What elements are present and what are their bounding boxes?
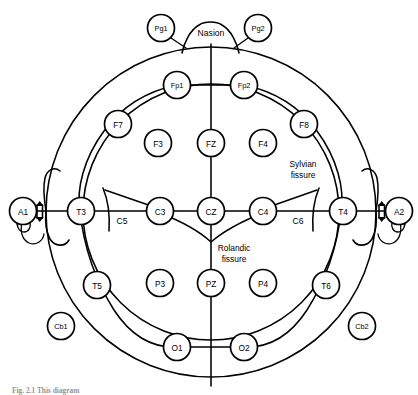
- electrode-label-fp2: Fp2: [238, 81, 250, 90]
- electrode-label-f8: F8: [299, 120, 309, 130]
- electrode-label-o2: O2: [239, 343, 250, 353]
- label-c6: C6: [293, 216, 304, 226]
- electrode-label-pz: PZ: [206, 279, 216, 289]
- electrode-fz[interactable]: FZ: [198, 130, 225, 157]
- electrode-pz[interactable]: PZ: [198, 270, 225, 297]
- electrode-label-c3: C3: [155, 207, 166, 217]
- electrode-cz[interactable]: CZ: [198, 198, 225, 225]
- electrode-label-a2: A2: [394, 207, 404, 217]
- electrode-a1[interactable]: A1: [10, 198, 37, 225]
- pg1-connector: [171, 38, 186, 48]
- electrode-label-t4: T4: [338, 207, 348, 217]
- electrode-label-t3: T3: [76, 207, 86, 217]
- electrode-t6[interactable]: T6: [313, 272, 340, 299]
- nasion-label: Nasion: [198, 28, 225, 38]
- electrode-f7[interactable]: F7: [105, 111, 132, 138]
- electrode-label-fp1: Fp1: [171, 81, 183, 90]
- electrode-p4[interactable]: P4: [250, 270, 277, 297]
- electrode-label-a1: A1: [18, 207, 28, 217]
- electrode-label-cz: CZ: [206, 207, 217, 217]
- electrode-p3[interactable]: P3: [147, 270, 174, 297]
- electrode-label-c4: C4: [258, 207, 269, 217]
- left-sylvian-fissure-curve: [103, 188, 109, 231]
- electrode-label-fz: FZ: [206, 139, 216, 149]
- label-c5: C5: [117, 216, 128, 226]
- annotation-rolandic-line2: fissure: [222, 254, 247, 264]
- electrode-t4[interactable]: T4: [330, 198, 357, 225]
- electrode-label-f7: F7: [113, 120, 123, 130]
- electrode-fp2[interactable]: Fp2: [231, 72, 258, 99]
- electrode-f8[interactable]: F8: [291, 111, 318, 138]
- electrode-pg1[interactable]: Pg1: [148, 15, 175, 42]
- electrode-label-cb2: Cb2: [355, 322, 368, 331]
- electrode-t3[interactable]: T3: [68, 198, 95, 225]
- electrode-pg2[interactable]: Pg2: [245, 15, 272, 42]
- electrode-t5[interactable]: T5: [84, 272, 111, 299]
- electrode-o2[interactable]: O2: [231, 334, 258, 361]
- right-sylvian-fissure-curve: [313, 188, 319, 231]
- electrode-label-cb1: Cb1: [54, 322, 67, 331]
- electrode-label-pg2: Pg2: [252, 24, 265, 33]
- electrode-a2[interactable]: A2: [386, 198, 413, 225]
- annotation-sylvian-line1: Sylvian: [290, 159, 317, 169]
- electrode-o1[interactable]: O1: [164, 334, 191, 361]
- electrode-label-o1: O1: [172, 343, 183, 353]
- electrode-label-t6: T6: [321, 281, 331, 291]
- annotation-sylvian: Sylvianfissure: [290, 159, 317, 180]
- electrode-label-f3: F3: [153, 139, 163, 149]
- electrode-cb1[interactable]: Cb1: [48, 313, 75, 340]
- right-earlobe: [378, 222, 401, 244]
- electrode-f3[interactable]: F3: [145, 130, 172, 157]
- figure-caption: Fig. 2.1 This diagram: [12, 386, 79, 395]
- electrode-label-t5: T5: [92, 281, 102, 291]
- electrode-c3[interactable]: C3: [147, 198, 174, 225]
- electrode-f4[interactable]: F4: [250, 130, 277, 157]
- electrode-label-p3: P3: [155, 279, 165, 289]
- electrode-fp1[interactable]: Fp1: [164, 72, 191, 99]
- electrode-label-pg1: Pg1: [155, 24, 168, 33]
- electrode-label-p4: P4: [258, 279, 268, 289]
- annotation-rolandic-line1: Rolandic: [218, 243, 251, 253]
- electrode-cb2[interactable]: Cb2: [349, 313, 376, 340]
- annotation-sylvian-line2: fissure: [291, 170, 316, 180]
- electrode-c4[interactable]: C4: [250, 198, 277, 225]
- electrode-label-f4: F4: [258, 139, 268, 149]
- left-earlobe: [21, 222, 44, 244]
- annotation-rolandic: Rolandicfissure: [218, 243, 251, 264]
